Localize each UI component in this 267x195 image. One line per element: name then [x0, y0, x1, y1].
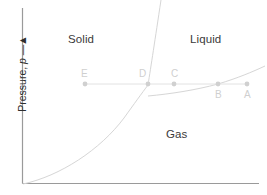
sublimation-curve — [23, 85, 148, 184]
point-label-c: C — [171, 68, 178, 79]
y-axis-label: Pressure, p —▲ — [16, 24, 28, 124]
phase-diagram-canvas — [0, 0, 267, 195]
fusion-curve — [148, 0, 161, 85]
point-marker-a — [245, 82, 250, 87]
region-label-solid: Solid — [68, 33, 94, 45]
region-label-liquid: Liquid — [190, 33, 221, 45]
point-marker-b — [216, 82, 221, 87]
point-marker-e — [83, 82, 88, 87]
phase-diagram-figure: Pressure, p —▲ Solid Liquid Gas EDCBA — [0, 0, 267, 195]
y-axis-label-symbol: p — [16, 58, 28, 64]
point-marker-c — [172, 82, 177, 87]
point-label-e: E — [81, 68, 88, 79]
point-label-d: D — [139, 68, 146, 79]
y-axis-label-text: Pressure, — [16, 67, 28, 112]
point-label-a: A — [244, 89, 251, 100]
point-marker-d — [146, 82, 151, 87]
point-label-b: B — [215, 89, 222, 100]
region-label-gas: Gas — [166, 128, 187, 140]
y-axis-arrow-icon: —▲ — [16, 36, 28, 55]
